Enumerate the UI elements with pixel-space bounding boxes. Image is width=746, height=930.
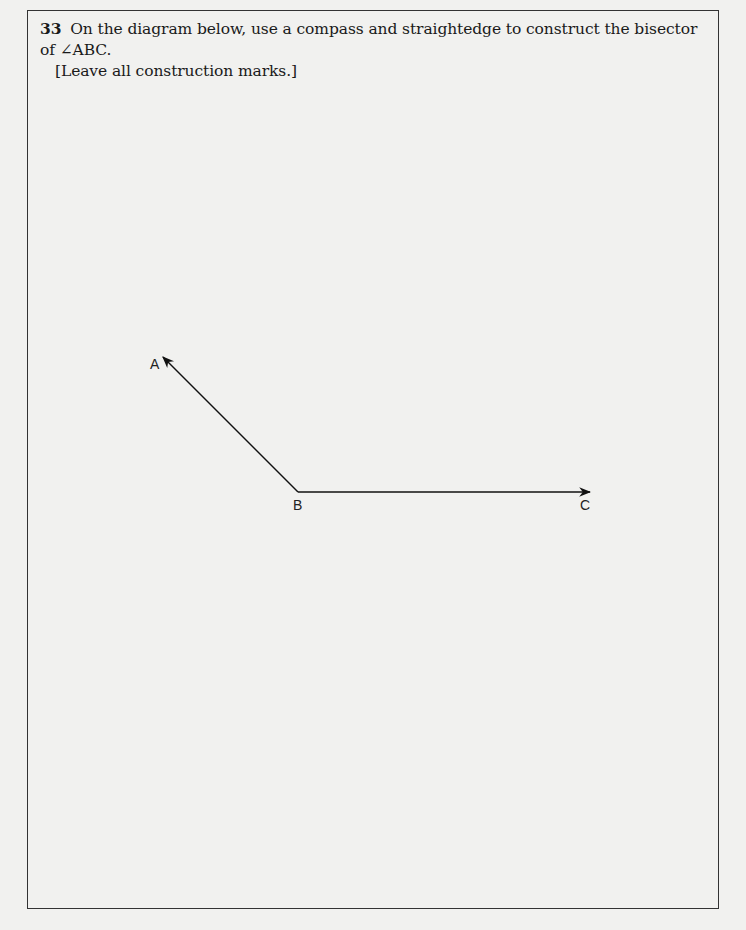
ray-ba: [163, 357, 298, 492]
point-b-label: B: [293, 497, 302, 513]
angle-diagram: A B C: [0, 0, 746, 930]
point-c-label: C: [580, 497, 590, 513]
point-a-label: A: [150, 356, 160, 372]
